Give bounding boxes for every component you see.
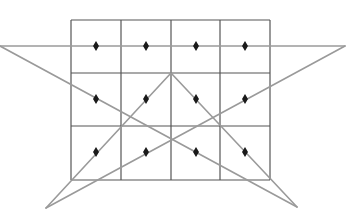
star-segment-apex-to-bottom_right [171,73,297,207]
star-segment-right_tip-to-bottom_left [46,46,345,208]
star-segment-bottom_left-to-apex [46,73,171,208]
diamond-marker-icon [143,41,149,51]
star-lines [0,46,345,208]
diamond-marker-icon [93,41,99,51]
star-grid-diagram [0,0,360,222]
diamond-marker-icon [193,147,199,157]
diagram-canvas [0,0,360,222]
diamond-marker-icon [93,94,99,104]
diamond-marker-icon [242,94,248,104]
diamond-marker-icon [193,41,199,51]
diamond-marker-icon [242,41,248,51]
